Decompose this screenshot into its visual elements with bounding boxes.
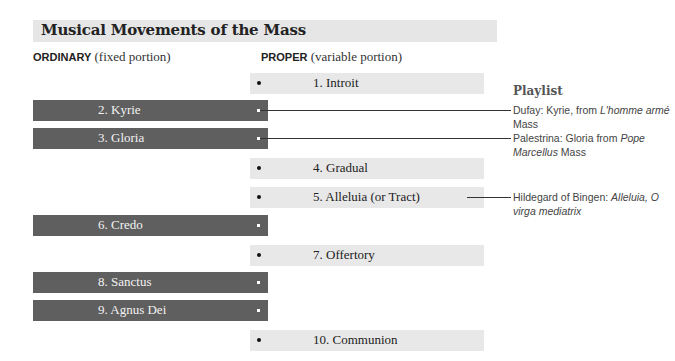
playlist-item-text: Hildegard of Bingen: — [513, 191, 611, 203]
ordinary-column-header: ORDINARY (fixed portion) — [33, 49, 171, 65]
bullet-icon — [257, 338, 261, 342]
movement-label: 3. Gloria — [98, 130, 144, 146]
movement-label: 7. Offertory — [313, 247, 375, 263]
playlist-item-work-title: L'homme armé — [600, 104, 670, 116]
bullet-icon — [257, 309, 260, 312]
movement-label: 4. Gradual — [313, 160, 368, 176]
movement-label: 5. Alleluia (or Tract) — [313, 189, 420, 205]
movement-gloria: 3. Gloria — [33, 128, 268, 149]
movement-label: 1. Introit — [313, 75, 359, 91]
connector-line-kyrie — [260, 110, 511, 111]
bullet-icon — [257, 81, 261, 85]
playlist-item-text: Dufay: Kyrie, from — [513, 104, 600, 116]
playlist-item-text: Palestrina: Gloria from — [513, 132, 620, 144]
proper-keyword: PROPER — [261, 51, 307, 63]
page-title: Musical Movements of the Mass — [41, 21, 306, 39]
playlist-item-suffix: Mass — [513, 118, 538, 130]
bullet-icon — [257, 224, 260, 227]
bullet-icon — [257, 195, 261, 199]
movement-credo: 6. Credo — [33, 215, 268, 236]
connector-line-gloria — [260, 138, 511, 139]
movement-agnus-dei: 9. Agnus Dei — [33, 300, 268, 321]
movement-label: 6. Credo — [98, 217, 143, 233]
movement-label: 2. Kyrie — [98, 102, 141, 118]
movement-communion: 10. Communion — [250, 330, 484, 351]
ordinary-note: (fixed portion) — [91, 49, 170, 64]
movement-label: 10. Communion — [313, 332, 398, 348]
movement-offertory: 7. Offertory — [250, 245, 484, 266]
movement-sanctus: 8. Sanctus — [33, 272, 268, 293]
proper-note: (variable portion) — [307, 49, 402, 64]
title-bar: Musical Movements of the Mass — [33, 20, 497, 42]
movement-label: 8. Sanctus — [98, 274, 151, 290]
playlist-item-suffix: Mass — [558, 146, 586, 158]
playlist-item-dufay[interactable]: Dufay: Kyrie, from L'homme armé Mass — [513, 103, 673, 131]
bullet-icon — [257, 253, 261, 257]
movement-label: 9. Agnus Dei — [98, 302, 166, 318]
playlist-item-palestrina[interactable]: Palestrina: Gloria from Pope Marcellus M… — [513, 131, 673, 159]
movement-kyrie: 2. Kyrie — [33, 100, 268, 121]
playlist-heading: Playlist — [513, 84, 563, 98]
playlist-item-hildegard[interactable]: Hildegard of Bingen: Alleluia, O virga m… — [513, 190, 673, 218]
movement-introit: 1. Introit — [250, 73, 484, 94]
movement-alleluia: 5. Alleluia (or Tract) — [250, 187, 484, 208]
bullet-icon — [257, 166, 261, 170]
proper-column-header: PROPER (variable portion) — [261, 49, 402, 65]
bullet-icon — [257, 281, 260, 284]
movement-gradual: 4. Gradual — [250, 158, 484, 179]
connector-line-alleluia — [467, 197, 511, 198]
ordinary-keyword: ORDINARY — [33, 51, 91, 63]
